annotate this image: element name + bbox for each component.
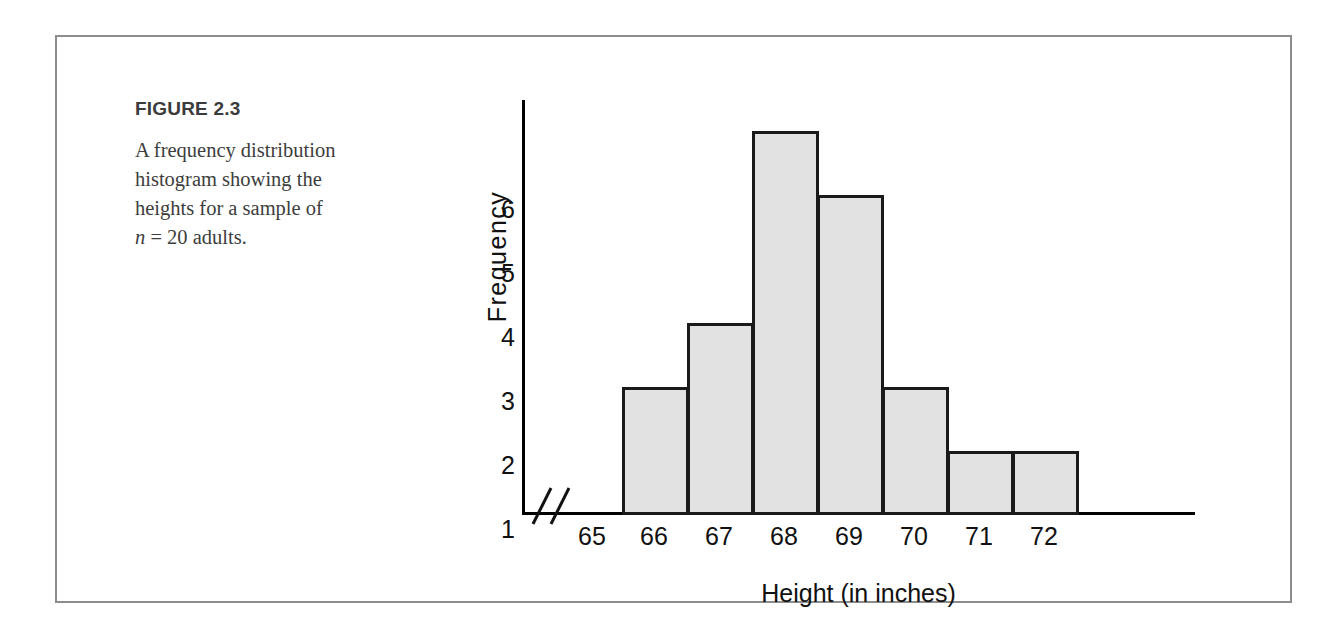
histogram-bar [752,131,819,515]
histogram-bar [817,195,884,515]
y-tick-label: 3 [475,389,515,414]
histogram-bars [622,100,1137,515]
x-tick-label: 72 [1012,524,1076,549]
x-tick-label: 67 [687,524,751,549]
y-tick-label: 2 [475,453,515,478]
figure-page: FIGURE 2.3 A frequency distribution hist… [0,0,1341,641]
figure-caption-block: FIGURE 2.3 A frequency distribution hist… [135,99,435,252]
histogram-bar [687,323,754,515]
figure-label: FIGURE 2.3 [135,99,435,120]
histogram-bar [622,387,689,515]
y-axis-line [522,100,525,515]
y-tick-label: 1 [475,517,515,542]
y-tick-label: 4 [475,325,515,350]
caption-line-3: heights for a sample of [135,197,323,219]
histogram-plot: Frequency 6 5 4 3 2 1 [437,92,1227,612]
x-tick-label: 71 [947,524,1011,549]
caption-variable-n: n [135,226,145,248]
y-tick-label: 6 [475,197,515,222]
axis-break-icon [529,484,575,528]
x-tick-label: 68 [752,524,816,549]
figure-frame: FIGURE 2.3 A frequency distribution hist… [55,35,1292,603]
caption-line-2: histogram showing the [135,168,322,190]
y-axis-tick-labels: 6 5 4 3 2 1 [459,92,515,515]
y-tick-label: 5 [475,261,515,286]
histogram-bar [947,451,1014,515]
x-tick-label: 65 [560,524,624,549]
figure-caption-text: A frequency distribution histogram showi… [135,136,435,252]
histogram-bar [1012,451,1079,515]
histogram-bar [882,387,949,515]
x-axis-tick-labels: 65 66 67 68 69 70 71 72 [522,524,1195,564]
x-tick-label: 70 [882,524,946,549]
x-tick-label: 69 [817,524,881,549]
caption-line-1: A frequency distribution [135,139,335,161]
x-axis-title: Height (in inches) [522,579,1195,608]
x-tick-label: 66 [622,524,686,549]
caption-line-4: = 20 adults. [145,226,247,248]
